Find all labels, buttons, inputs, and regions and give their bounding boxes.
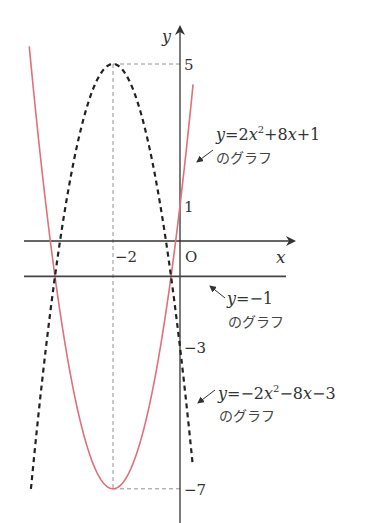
annotation-equation: y=−1 [226,289,273,308]
annotation-caption: のグラフ [228,314,284,330]
annotation-line-y-minus-1: y=−1 のグラフ [210,286,284,330]
x-tick-label: −2 [115,248,137,266]
pointer-arrow-icon [198,390,215,403]
x-axis-label: x [276,247,286,267]
annotation-equation: y=2x2+8x+1 [215,124,320,144]
annotation-downward-parabola: y=−2x2−8x−3 のグラフ [198,383,336,424]
annotation-equation: y=−2x2−8x−3 [217,383,336,403]
y-axis-label: y [161,27,172,46]
annotation-upward-parabola: y=2x2+8x+1 のグラフ [197,124,320,166]
y-tick-label: 1 [184,198,194,216]
annotation-caption: のグラフ [216,150,272,166]
series-upward-parabola [29,46,193,489]
origin-label: O [185,248,197,266]
pointer-arrow-icon [197,150,213,162]
annotation-caption: のグラフ [219,408,275,424]
y-tick-label: 5 [184,56,194,74]
pointer-arrow-icon [210,286,225,298]
y-tick-label: −7 [184,481,206,499]
y-tick-label: −3 [184,339,206,357]
graph-figure: y x O −2 5 1 −3 −7 y=2x2+8x+1 のグラフ y=−1 … [0,0,384,523]
